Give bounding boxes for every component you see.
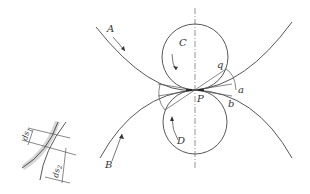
arrow-b xyxy=(112,134,124,161)
arc-b xyxy=(100,90,292,158)
label-a-body: A xyxy=(106,23,114,34)
arc-a xyxy=(96,22,292,90)
inset-dim-2 xyxy=(62,148,66,183)
label-q: q xyxy=(217,59,223,70)
arrow-c xyxy=(172,54,178,70)
label-d: D xyxy=(176,135,185,146)
label-ds2: ds2 xyxy=(51,164,63,179)
inset-detail: ds1 ds2 xyxy=(20,121,76,183)
rolling-contact-diagram: A B C D P q a b ds1 ds2 xyxy=(0,0,310,194)
label-p: P xyxy=(196,93,204,104)
label-b-point: b xyxy=(228,98,234,109)
label-b-body: B xyxy=(104,159,112,170)
chord-line-1 xyxy=(165,69,226,110)
label-a-point: a xyxy=(238,84,244,95)
label-c: C xyxy=(179,37,187,48)
